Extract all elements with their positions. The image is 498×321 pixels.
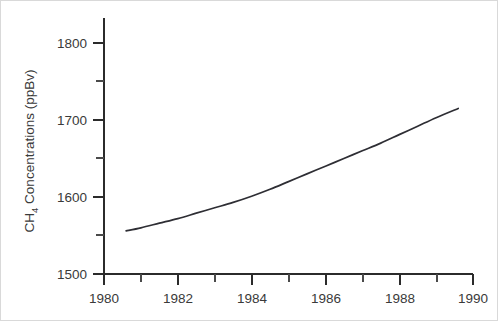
chart-figure: CH4 Concentrations (ppBv) 1800 1700 1600… <box>0 0 498 321</box>
y-tick-label-1800: 1800 <box>57 36 87 51</box>
y-axis-title-suffix: Concentrations (ppBv) <box>22 70 37 208</box>
y-axis-title-group: CH4 Concentrations (ppBv) <box>22 70 40 233</box>
x-tick-label-1982: 1982 <box>163 291 193 306</box>
x-axis: 1980 1982 1984 1986 1988 1990 <box>89 274 488 306</box>
plot-area <box>126 108 458 230</box>
x-tick-label-1984: 1984 <box>237 291 268 306</box>
y-axis-title-prefix: CH <box>22 213 37 233</box>
y-tick-label-1500: 1500 <box>57 267 87 282</box>
y-axis-title: CH4 Concentrations (ppBv) <box>22 70 40 233</box>
y-tick-label-1600: 1600 <box>57 190 87 205</box>
y-tick-label-1700: 1700 <box>57 113 87 128</box>
ch4-concentration-line-chart: CH4 Concentrations (ppBv) 1800 1700 1600… <box>1 1 498 321</box>
x-tick-label-1980: 1980 <box>89 291 119 306</box>
x-tick-label-1988: 1988 <box>385 291 415 306</box>
x-tick-label-1990: 1990 <box>458 291 488 306</box>
y-axis: 1800 1700 1600 1500 <box>57 18 104 282</box>
data-series-line-ch4 <box>126 108 458 230</box>
x-tick-label-1986: 1986 <box>311 291 341 306</box>
